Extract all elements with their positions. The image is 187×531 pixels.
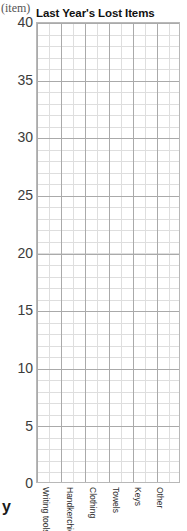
chart-container: (item) Last Year's Lost Items 40 35 30 2… bbox=[0, 0, 187, 531]
y-tick-label-20: 20 bbox=[2, 246, 36, 260]
y-tick-label-5: 5 bbox=[2, 419, 36, 433]
x-category-label-towels: Towels bbox=[110, 487, 122, 531]
y-tick-label-15: 15 bbox=[2, 303, 36, 317]
x-axis-title-clipped: y bbox=[2, 498, 11, 516]
y-tick-label-40: 40 bbox=[2, 15, 36, 29]
y-tick-label-10: 10 bbox=[2, 361, 36, 375]
bars-layer bbox=[37, 23, 179, 482]
y-tick-label-25: 25 bbox=[2, 188, 36, 202]
x-category-label-other: Other bbox=[154, 487, 166, 531]
y-tick-label-0: 0 bbox=[2, 476, 36, 490]
chart-title: Last Year's Lost Items bbox=[36, 6, 186, 20]
plot-area bbox=[36, 22, 180, 483]
x-category-label-keys: Keys bbox=[132, 487, 144, 531]
y-tick-label-30: 30 bbox=[2, 130, 36, 144]
y-tick-label-35: 35 bbox=[2, 73, 36, 87]
x-category-label-handkerchief: Handkerchief bbox=[64, 487, 76, 531]
x-category-label-clothing: Clothing bbox=[87, 487, 99, 531]
x-category-label-writing-tools: Writing tools bbox=[40, 487, 52, 531]
